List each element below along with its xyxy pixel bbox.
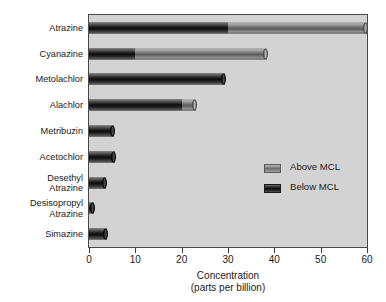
category-label: Desisopropyl Atrazine <box>0 198 83 219</box>
bar <box>89 48 267 59</box>
category-label: Atrazine <box>0 23 83 33</box>
x-axis-tick-label: 30 <box>222 254 233 265</box>
x-axis-tick-label: 20 <box>176 254 187 265</box>
bar-segment-below-mcl <box>89 22 228 33</box>
bar-segment-below-mcl <box>89 74 225 85</box>
bar <box>89 177 106 188</box>
legend-swatch <box>264 164 281 173</box>
x-axis-title-line2: (parts per billion) <box>88 282 368 294</box>
legend-item: Below MCL <box>264 180 364 200</box>
category-label: Metribuzin <box>0 126 83 136</box>
bar-segment-above-mcl <box>228 22 367 33</box>
x-axis-tick-label: 40 <box>269 254 280 265</box>
bar-segment-above-mcl <box>135 48 267 59</box>
x-axis-tick <box>274 248 275 253</box>
bar-end-cap <box>102 177 107 188</box>
legend-swatch <box>264 184 281 193</box>
bar-segment-below-mcl <box>89 48 135 59</box>
x-axis-tick-label: 0 <box>86 254 92 265</box>
x-axis-tick <box>228 248 229 253</box>
x-axis-tick-label: 60 <box>361 254 372 265</box>
bar-end-cap <box>263 48 268 59</box>
bar <box>89 151 115 162</box>
category-label: Alachlor <box>0 100 83 110</box>
bar-end-cap <box>363 22 368 33</box>
x-axis-tick-label: 10 <box>130 254 141 265</box>
bar <box>89 100 196 111</box>
bar-end-cap <box>90 203 95 214</box>
x-axis-tick <box>321 248 322 253</box>
bar-end-cap <box>110 126 115 137</box>
x-axis-tick <box>89 248 90 253</box>
pesticide-concentration-bar-chart: AtrazineCyanazineMetolachlorAlachlorMetr… <box>0 0 386 302</box>
x-axis-tick-label: 50 <box>315 254 326 265</box>
category-label: Desethyl Atrazine <box>0 172 83 193</box>
legend-item: Above MCL <box>264 160 364 180</box>
legend-label: Above MCL <box>290 161 340 172</box>
bar <box>89 126 114 137</box>
bar-end-cap <box>221 74 226 85</box>
bar-segment-below-mcl <box>89 100 182 111</box>
x-axis-tick <box>182 248 183 253</box>
bar <box>89 74 225 85</box>
x-axis-tick <box>367 248 368 253</box>
x-axis-title-line1: Concentration <box>88 270 368 282</box>
category-label: Simazine <box>0 229 83 239</box>
bar <box>89 229 107 240</box>
bars-layer <box>89 15 367 247</box>
bar-end-cap <box>192 100 197 111</box>
legend-label: Below MCL <box>290 181 339 192</box>
category-label: Acetochlor <box>0 152 83 162</box>
bar-end-cap <box>103 229 108 240</box>
bar-end-cap <box>111 151 116 162</box>
bar <box>89 22 367 33</box>
category-label: Cyanazine <box>0 48 83 58</box>
category-axis-labels: AtrazineCyanazineMetolachlorAlachlorMetr… <box>0 14 83 248</box>
bar <box>89 203 94 214</box>
x-axis-tick <box>135 248 136 253</box>
chart-legend: Above MCLBelow MCL <box>264 160 364 200</box>
category-label: Metolachlor <box>0 74 83 84</box>
